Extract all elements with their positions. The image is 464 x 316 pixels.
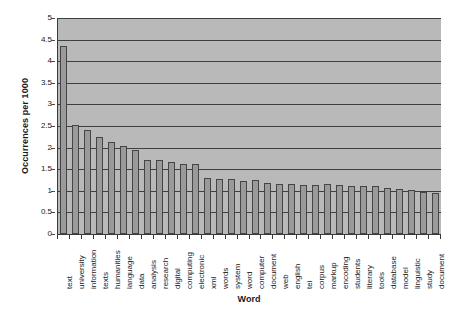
y-tick-mark <box>51 191 55 192</box>
y-axis-tick-labels: 00.511.522.533.544.55 <box>30 18 55 234</box>
bars-layer <box>58 18 441 234</box>
bar <box>252 180 259 234</box>
bar <box>396 189 403 234</box>
bar <box>96 137 103 234</box>
bar <box>132 150 139 234</box>
bar <box>192 164 199 234</box>
y-tick-mark <box>51 212 55 213</box>
y-tick-mark <box>51 148 55 149</box>
x-category-label: system <box>234 264 242 289</box>
bar <box>384 188 391 234</box>
x-axis-title: Word <box>57 294 441 304</box>
bar <box>324 184 331 234</box>
bar <box>84 130 91 234</box>
bar <box>156 160 163 234</box>
x-axis-category-labels: textuniversityinformationtextshumanities… <box>57 239 441 291</box>
x-category-label: database <box>390 256 398 289</box>
bar <box>408 190 415 234</box>
x-category-label: texts <box>102 272 110 289</box>
x-category-label: tools <box>378 272 386 289</box>
x-category-label: english <box>294 264 302 289</box>
x-category-label: information <box>90 249 98 289</box>
bar <box>312 185 319 234</box>
y-tick-mark <box>51 104 55 105</box>
bar <box>276 184 283 234</box>
x-category-label: model <box>402 267 410 289</box>
x-category-label: digital <box>174 268 182 289</box>
bar <box>144 160 151 234</box>
x-category-label: linguistic <box>414 258 422 289</box>
bar <box>72 125 79 234</box>
bar <box>300 185 307 234</box>
x-category-label: tei <box>306 281 314 289</box>
y-tick-mark <box>51 18 55 19</box>
bar <box>120 146 127 234</box>
bar <box>348 186 355 234</box>
bar <box>180 164 187 234</box>
x-category-label: encoding <box>342 257 350 289</box>
y-tick-mark <box>51 169 55 170</box>
x-category-label: document <box>270 254 278 289</box>
x-category-label: computer <box>258 256 266 289</box>
x-category-label: document <box>438 254 446 289</box>
x-category-label: research <box>162 258 170 289</box>
x-category-label: corpus <box>318 265 326 289</box>
bar-chart: Occurrences per 1000 00.511.522.533.544.… <box>0 0 464 316</box>
x-category-label: word <box>246 272 254 289</box>
bar <box>420 192 427 234</box>
bar <box>432 193 439 234</box>
bar <box>168 162 175 234</box>
bar <box>108 142 115 234</box>
y-tick-mark <box>51 61 55 62</box>
bar <box>240 181 247 234</box>
x-category-label: text <box>66 276 74 289</box>
x-category-label: university <box>78 255 86 289</box>
x-category-label: words <box>222 268 230 289</box>
x-category-label: markup <box>330 262 338 289</box>
bar <box>204 178 211 234</box>
x-category-label: web <box>282 274 290 289</box>
x-category-label: study <box>426 270 434 289</box>
x-category-label: analysis <box>150 260 158 289</box>
bar <box>216 179 223 234</box>
x-category-label: humanities <box>114 250 122 289</box>
y-tick-mark <box>51 83 55 84</box>
x-category-label: xml <box>210 277 218 289</box>
plot-area <box>57 18 441 235</box>
x-category-label: literary <box>366 265 374 289</box>
bar <box>264 183 271 234</box>
x-category-label: electronic <box>198 255 206 289</box>
x-category-label: computing <box>186 252 194 289</box>
bar <box>372 186 379 234</box>
bar <box>336 185 343 234</box>
x-category-label: data <box>138 273 146 289</box>
y-tick-mark <box>51 234 55 235</box>
bar <box>360 186 367 234</box>
x-category-label: students <box>354 259 362 289</box>
x-category-label: language <box>126 256 134 289</box>
y-tick-mark <box>51 126 55 127</box>
bar <box>288 184 295 234</box>
bar <box>228 179 235 234</box>
bar <box>60 46 67 234</box>
y-tick-mark <box>51 40 55 41</box>
